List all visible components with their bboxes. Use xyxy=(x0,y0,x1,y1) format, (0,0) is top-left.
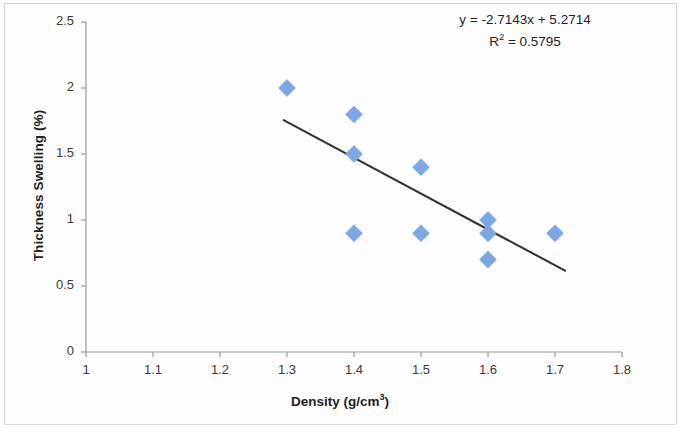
r-squared-number: = 0.5795 xyxy=(504,33,561,48)
r-squared-value: R2 = 0.5795 xyxy=(400,30,650,51)
y-tick-label: 0 xyxy=(34,343,74,358)
x-tick-label: 1.7 xyxy=(535,362,575,377)
y-tick-label: 2.5 xyxy=(34,13,74,28)
y-axis-title: Thickness Swelling (%) xyxy=(31,86,46,286)
data-point-marker xyxy=(413,225,430,242)
x-tick-label: 1.1 xyxy=(133,362,173,377)
data-point-marker xyxy=(346,106,363,123)
x-tick-label: 1 xyxy=(66,362,106,377)
data-point-marker xyxy=(413,159,430,176)
scatter-chart: Thickness Swelling (%) Density (g/cm3) y… xyxy=(0,0,680,432)
data-point-marker xyxy=(346,225,363,242)
r-squared-symbol: R xyxy=(489,33,499,48)
x-tick-label: 1.2 xyxy=(200,362,240,377)
x-axis-title: Density (g/cm3) xyxy=(0,392,680,409)
y-tick-label: 2 xyxy=(34,79,74,94)
y-tick-label: 1.5 xyxy=(34,145,74,160)
x-tick-label: 1.4 xyxy=(334,362,374,377)
data-point-marker xyxy=(480,251,497,268)
regression-equation: y = -2.7143x + 5.2714 xyxy=(400,10,650,30)
scanned-page: Thickness Swelling (%) Density (g/cm3) y… xyxy=(0,0,680,432)
x-axis-title-tail: ) xyxy=(385,394,390,409)
trendline xyxy=(284,120,565,270)
x-axis-title-main: Density (g/cm xyxy=(291,394,380,409)
data-point-marker xyxy=(547,225,564,242)
x-tick-label: 1.8 xyxy=(602,362,642,377)
y-tick-label: 0.5 xyxy=(34,277,74,292)
x-tick-label: 1.5 xyxy=(401,362,441,377)
x-tick-label: 1.6 xyxy=(468,362,508,377)
y-tick-label: 1 xyxy=(34,211,74,226)
regression-annotation: y = -2.7143x + 5.2714 R2 = 0.5795 xyxy=(400,10,650,51)
x-tick-label: 1.3 xyxy=(267,362,307,377)
data-point-marker xyxy=(279,80,296,97)
